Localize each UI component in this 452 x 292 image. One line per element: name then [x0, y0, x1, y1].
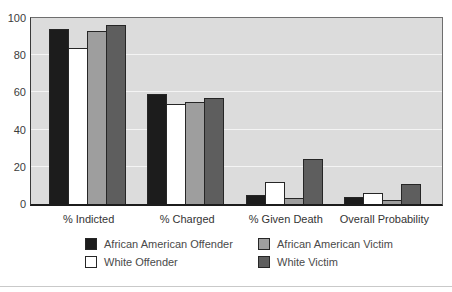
- bar-white-victim-overall-probability: [401, 184, 421, 204]
- y-tick-label-80: 80: [0, 48, 26, 62]
- legend-label-african-american-victim: African American Victim: [277, 238, 393, 250]
- bar-african-american-offender-overall-probability: [344, 197, 364, 204]
- bar-african-american-offender--given-death: [246, 195, 266, 204]
- y-tick-label-40: 40: [0, 123, 26, 137]
- bar-african-american-victim-overall-probability: [382, 200, 402, 204]
- legend-item-white-victim: White Victim: [258, 256, 393, 268]
- legend-item-african-american-offender: African American Offender: [85, 238, 258, 250]
- bar-white-victim--indicted: [106, 25, 126, 204]
- x-axis-label--charged: % Charged: [147, 213, 227, 225]
- bar-african-american-offender--indicted: [49, 29, 69, 204]
- bar-white-offender-overall-probability: [363, 193, 383, 204]
- bar-white-offender--indicted: [68, 48, 88, 204]
- legend-item-white-offender: White Offender: [85, 256, 258, 268]
- bar-white-victim--given-death: [303, 159, 323, 204]
- legend-item-african-american-victim: African American Victim: [258, 238, 393, 250]
- bar-group--indicted: [49, 25, 129, 204]
- bar-african-american-offender--charged: [147, 94, 167, 204]
- bar-group--charged: [147, 94, 227, 204]
- bar-chart: 020406080100 % Indicted% Charged% Given …: [0, 0, 452, 292]
- legend-swatch-white-offender: [85, 256, 97, 268]
- bar-african-american-victim--indicted: [87, 31, 107, 204]
- x-axis-label--indicted: % Indicted: [49, 213, 129, 225]
- legend-swatch-african-american-victim: [258, 238, 270, 250]
- bottom-divider: [0, 286, 452, 287]
- y-tick-label-60: 60: [0, 85, 26, 99]
- y-tick-label-100: 100: [0, 11, 26, 25]
- bar-white-victim--charged: [204, 98, 224, 204]
- legend-swatch-white-victim: [258, 256, 270, 268]
- x-axis-label--given-death: % Given Death: [246, 213, 326, 225]
- legend: African American OffenderWhite OffenderA…: [85, 238, 393, 268]
- plot-area: [30, 17, 443, 206]
- y-tick-label-20: 20: [0, 160, 26, 174]
- legend-swatch-african-american-offender: [85, 238, 97, 250]
- legend-label-white-victim: White Victim: [277, 256, 338, 268]
- legend-label-white-offender: White Offender: [104, 256, 178, 268]
- bar-group-overall-probability: [344, 184, 424, 204]
- y-tick-label-0: 0: [0, 197, 26, 211]
- x-axis-label-overall-probability: Overall Probability: [344, 213, 424, 225]
- legend-label-african-american-offender: African American Offender: [104, 238, 233, 250]
- bar-groups: [31, 18, 442, 204]
- bar-white-offender--charged: [166, 104, 186, 204]
- bar-white-offender--given-death: [265, 182, 285, 204]
- bar-group--given-death: [246, 159, 326, 204]
- bar-african-american-victim--given-death: [284, 198, 304, 204]
- bar-african-american-victim--charged: [185, 102, 205, 204]
- x-axis: % Indicted% Charged% Given DeathOverall …: [30, 213, 443, 225]
